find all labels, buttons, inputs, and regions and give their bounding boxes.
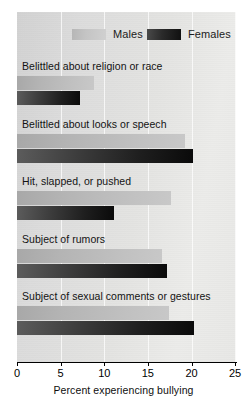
x-tick-25 [235,362,236,366]
legend-label-females: Females [188,28,231,40]
bar-females [17,264,167,278]
plot-area: Males Females Belittled about religion o… [17,12,236,362]
chart-legend: Males Females [17,26,236,42]
x-axis-line [17,362,237,363]
bar-group-label: Subject of rumors [22,233,105,245]
legend-entry-females: Females [147,26,231,42]
legend-entry-males: Males [72,26,143,42]
x-tick-label: 5 [58,367,64,379]
legend-label-males: Males [113,28,143,40]
bar-group: Hit, slapped, or pushed [17,175,236,223]
bar-females [17,206,114,220]
x-tick-label: 25 [229,367,241,379]
bar-males [17,76,94,90]
x-tick-label: 0 [14,367,20,379]
x-tick-15 [148,362,149,366]
bar-females [17,149,193,163]
x-tick-label: 15 [142,367,154,379]
x-tick-label: 20 [185,367,197,379]
legend-swatch-males-icon [72,29,106,40]
bar-group: Subject of rumors [17,233,236,281]
x-tick-20 [192,362,193,366]
bar-group-label: Hit, slapped, or pushed [22,175,131,187]
bar-males [17,134,185,148]
legend-swatch-females-icon [147,29,181,40]
bar-group-label: Belittled about looks or speech [22,118,167,130]
x-tick-10 [104,362,105,366]
bar-females [17,91,80,105]
bar-group-label: Subject of sexual comments or gestures [22,290,211,302]
x-axis-title: Percent experiencing bullying [0,384,247,396]
x-tick-0 [17,362,18,366]
bar-males [17,191,171,205]
bullying-bar-chart: Males Females Belittled about religion o… [0,0,247,401]
x-tick-5 [61,362,62,366]
bar-group: Belittled about religion or race [17,60,236,108]
bar-males [17,249,162,263]
bar-group: Subject of sexual comments or gestures [17,290,236,338]
bar-group: Belittled about looks or speech [17,118,236,166]
bar-males [17,306,169,320]
bar-females [17,321,194,335]
x-tick-label: 10 [98,367,110,379]
bar-group-label: Belittled about religion or race [22,60,163,72]
